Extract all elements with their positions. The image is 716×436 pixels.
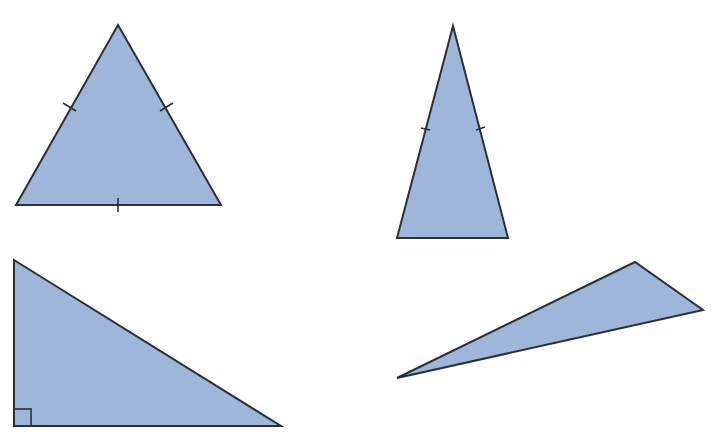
isosceles-triangle	[397, 26, 508, 238]
triangle-diagram: Types of triangles Equilateral triangle …	[0, 0, 716, 436]
right-triangle	[14, 260, 281, 426]
isosceles-triangle-shape	[397, 26, 508, 238]
right-triangle-shape	[14, 260, 281, 426]
scalene-triangle-shape	[397, 262, 703, 378]
scalene-triangle	[397, 262, 703, 378]
equilateral-triangle	[16, 25, 221, 212]
equilateral-triangle-shape	[16, 25, 221, 205]
diagram-canvas	[0, 0, 716, 436]
